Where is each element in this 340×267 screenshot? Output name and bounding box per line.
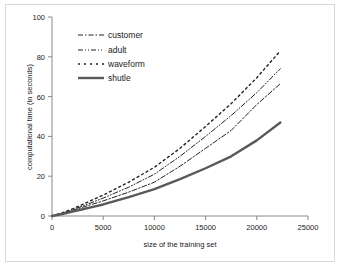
- y-tick-label: 60: [37, 93, 45, 102]
- y-tick-label: 100: [32, 13, 45, 22]
- chart-figure: 100 80 60 40 20 0 0 5000 10000 15000 200…: [0, 0, 340, 267]
- legend-label-shutle: shutle: [108, 73, 131, 83]
- x-axis-title: size of the training set: [144, 240, 218, 249]
- y-axis-title: computational time (in seconds): [25, 64, 34, 170]
- x-tick-label: 20000: [246, 223, 267, 232]
- x-tick-label: 25000: [298, 223, 319, 232]
- x-tick-label: 10000: [144, 223, 165, 232]
- x-tick-label: 0: [50, 223, 54, 232]
- legend-label-waveform: waveform: [107, 59, 145, 69]
- y-tick-marks: [48, 17, 52, 216]
- legend-label-customer: customer: [108, 30, 143, 40]
- y-tick-label: 0: [41, 212, 45, 221]
- y-tick-label: 40: [37, 132, 45, 141]
- x-tick-marks: [52, 216, 308, 220]
- x-tick-label: 15000: [195, 223, 216, 232]
- plot-area: [52, 17, 308, 216]
- line-chart: 100 80 60 40 20 0 0 5000 10000 15000 200…: [0, 0, 340, 267]
- y-tick-label: 20: [37, 172, 45, 181]
- x-tick-label: 5000: [95, 223, 112, 232]
- y-tick-label: 80: [37, 53, 45, 62]
- legend-label-adult: adult: [108, 45, 127, 55]
